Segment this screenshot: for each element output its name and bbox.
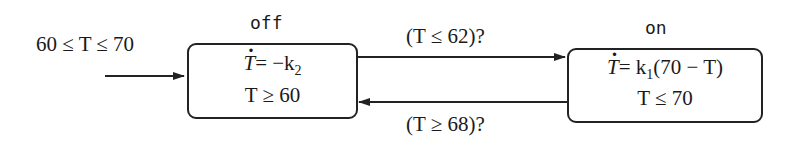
derivative-var: T xyxy=(607,55,619,80)
guard-off-to-on: (T ≤ 62)? xyxy=(406,24,485,49)
state-label-off: off xyxy=(250,12,283,33)
invariant-on: T ≤ 70 xyxy=(569,86,761,111)
state-off: T= −k2 T ≥ 60 xyxy=(187,43,358,119)
flow-rhs: = k xyxy=(619,55,647,79)
guard-on-to-off: (T ≥ 68)? xyxy=(406,112,485,137)
initial-condition: 60 ≤ T ≤ 70 xyxy=(36,32,134,57)
flow-subscript: 2 xyxy=(295,63,302,78)
state-on: T= k1(70 − T) T ≤ 70 xyxy=(567,48,763,123)
flow-rhs-tail: (70 − T) xyxy=(653,55,723,79)
state-label-on: on xyxy=(645,17,667,38)
invariant-off: T ≥ 60 xyxy=(189,83,356,108)
flow-equation-off: T= −k2 xyxy=(189,51,356,79)
flow-equation-on: T= k1(70 − T) xyxy=(569,55,761,83)
flow-rhs: = −k xyxy=(255,51,294,75)
derivative-var: T xyxy=(243,51,255,76)
